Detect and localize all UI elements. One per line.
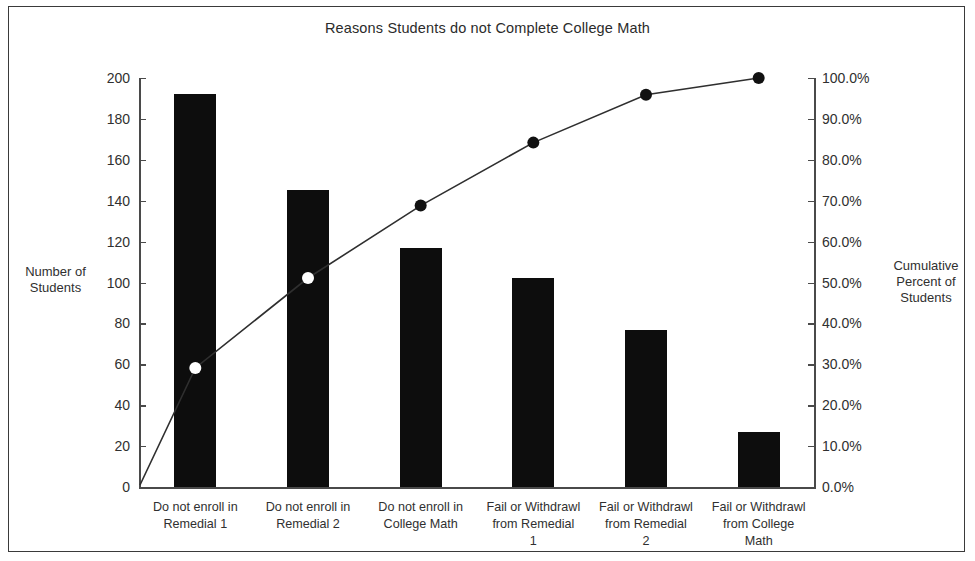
bottom-axis-line [139, 487, 816, 489]
category-label-line: 2 [586, 533, 707, 550]
chart-title: Reasons Students do not Complete College… [0, 20, 975, 36]
right-tick-label: 80.0% [822, 152, 902, 168]
left-axis-title: Number ofStudents [8, 264, 103, 296]
category-label: Do not enroll inRemedial 2 [248, 499, 369, 533]
axis-title-line: Students [8, 280, 103, 296]
right-tick-label: 30.0% [822, 356, 902, 372]
axis-title-line: Number of [8, 264, 103, 280]
category-label-line: from Remedial [586, 516, 707, 533]
category-label: Fail or Withdrawlfrom Remedial1 [473, 499, 594, 550]
right-tick-label: 60.0% [822, 234, 902, 250]
category-label-line: Fail or Withdrawl [698, 499, 819, 516]
left-tick-label: 180 [60, 111, 130, 127]
category-label: Do not enroll inRemedial 1 [135, 499, 256, 533]
right-tick-label: 0.0% [822, 479, 902, 495]
bar [287, 190, 329, 487]
right-axis-title: CumulativePercent ofStudents [880, 258, 972, 306]
right-tick-label: 40.0% [822, 315, 902, 331]
category-label: Fail or Withdrawlfrom Remedial2 [586, 499, 707, 550]
left-tick-label: 200 [60, 70, 130, 86]
category-label-line: from Remedial [473, 516, 594, 533]
bar [174, 94, 216, 487]
category-label: Do not enroll inCollege Math [360, 499, 481, 533]
bar [625, 330, 667, 487]
bar [512, 278, 554, 487]
right-tick-label: 70.0% [822, 193, 902, 209]
category-label: Fail or Withdrawlfrom CollegeMath [698, 499, 819, 550]
category-label-line: Do not enroll in [360, 499, 481, 516]
left-tick-label: 40 [60, 397, 130, 413]
category-label-line: Remedial 2 [248, 516, 369, 533]
pareto-chart: Reasons Students do not Complete College… [0, 0, 975, 561]
axis-title-line: Students [880, 290, 972, 306]
category-label-line: Fail or Withdrawl [586, 499, 707, 516]
right-tick-label: 20.0% [822, 397, 902, 413]
category-label-line: College Math [360, 516, 481, 533]
left-tick [139, 487, 146, 488]
left-tick-label: 80 [60, 315, 130, 331]
category-label-line: Fail or Withdrawl [473, 499, 594, 516]
bars-layer [139, 78, 815, 487]
category-label-line: Do not enroll in [248, 499, 369, 516]
bar [400, 248, 442, 487]
category-label-line: 1 [473, 533, 594, 550]
category-label-line: Math [698, 533, 819, 550]
category-label-line: Do not enroll in [135, 499, 256, 516]
axis-title-line: Percent of [880, 274, 972, 290]
right-tick-label: 10.0% [822, 438, 902, 454]
right-tick [808, 487, 815, 488]
bar [738, 432, 780, 487]
left-tick-label: 60 [60, 356, 130, 372]
axis-title-line: Cumulative [880, 258, 972, 274]
left-tick-label: 140 [60, 193, 130, 209]
left-tick-label: 0 [60, 479, 130, 495]
right-tick-label: 100.0% [822, 70, 902, 86]
category-label-line: Remedial 1 [135, 516, 256, 533]
left-tick-label: 160 [60, 152, 130, 168]
category-label-line: from College [698, 516, 819, 533]
left-tick-label: 20 [60, 438, 130, 454]
right-tick-label: 90.0% [822, 111, 902, 127]
left-tick-label: 120 [60, 234, 130, 250]
